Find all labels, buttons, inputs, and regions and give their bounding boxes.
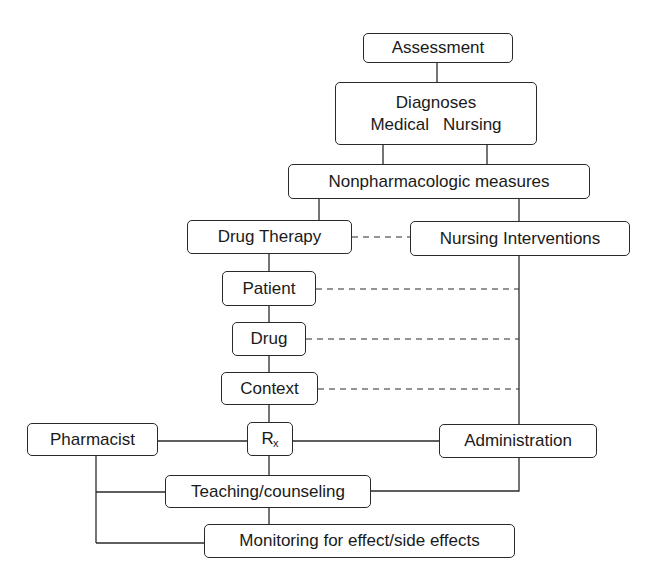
rx-node: Rx: [247, 422, 293, 456]
teaching-counseling-node: Teaching/counseling: [165, 475, 371, 508]
drug-node: Drug: [232, 322, 306, 356]
nursing-interventions-node: Nursing Interventions: [410, 221, 630, 256]
administration-label: Administration: [464, 431, 572, 451]
drug-therapy-node: Drug Therapy: [187, 220, 352, 254]
assessment-node: Assessment: [363, 33, 513, 63]
nonpharm-label: Nonpharmacologic measures: [328, 172, 549, 192]
diagnoses-medical: Medical: [370, 114, 429, 136]
rx-symbol: Rx: [262, 429, 279, 449]
pharmacist-label: Pharmacist: [50, 430, 135, 450]
nursing-interventions-label: Nursing Interventions: [440, 229, 601, 249]
patient-label: Patient: [243, 279, 296, 299]
teaching-label: Teaching/counseling: [191, 482, 345, 502]
diagnoses-title: Diagnoses: [396, 92, 476, 114]
nonpharmacologic-measures-node: Nonpharmacologic measures: [288, 164, 590, 199]
context-node: Context: [221, 372, 318, 405]
patient-node: Patient: [222, 271, 316, 306]
administration-node: Administration: [439, 424, 597, 458]
monitoring-label: Monitoring for effect/side effects: [239, 531, 479, 551]
monitoring-node: Monitoring for effect/side effects: [204, 524, 515, 558]
diagnoses-types: Medical Nursing: [370, 114, 501, 136]
drug-therapy-label: Drug Therapy: [218, 227, 322, 247]
context-label: Context: [240, 379, 299, 399]
drug-label: Drug: [251, 329, 288, 349]
diagnoses-nursing: Nursing: [443, 114, 502, 136]
pharmacist-node: Pharmacist: [27, 423, 158, 456]
assessment-label: Assessment: [392, 38, 485, 58]
diagnoses-node: Diagnoses Medical Nursing: [335, 82, 537, 145]
